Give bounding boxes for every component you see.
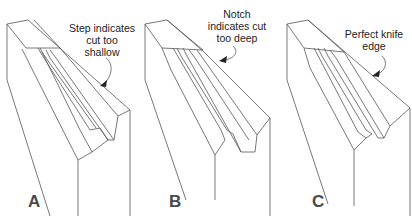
arrow-icon [372,70,380,77]
label-b: B [169,192,181,212]
arrow-icon [219,56,227,63]
label-a: A [28,192,40,212]
caption-a: Step indicates cut too shallow [62,22,142,58]
caption-c: Perfect knife edge [336,28,412,52]
panel-a: Step indicates cut too shallow A [0,0,137,216]
caption-b: Notch indicates cut too deep [199,8,275,44]
arrow-icon [100,80,107,87]
label-c: C [312,192,324,212]
panel-b: Notch indicates cut too deep B [137,0,274,216]
panel-c: Perfect knife edge C [274,0,411,216]
